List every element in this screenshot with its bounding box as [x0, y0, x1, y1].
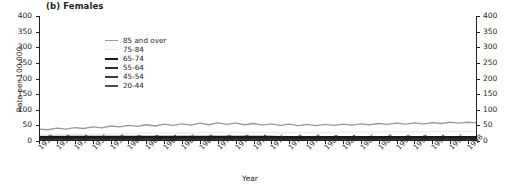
y-tick-mark-right — [477, 16, 480, 17]
y-tick-label: 0 — [8, 137, 32, 145]
y-tick-mark-right — [477, 125, 480, 126]
y-tick-mark-right — [477, 63, 480, 64]
y-tick-label: 250 — [8, 59, 32, 67]
y-tick-label-right: 350 — [483, 28, 507, 36]
legend-item-label: 75-84 — [123, 45, 144, 54]
series-lines — [39, 16, 477, 141]
y-tick-mark-right — [477, 32, 480, 33]
y-tick-label-right: 400 — [483, 12, 507, 20]
page-title: (b) Females — [46, 1, 103, 11]
y-tick-mark — [36, 110, 39, 111]
y-tick-label: 100 — [8, 106, 32, 114]
y-tick-label: 50 — [8, 121, 32, 129]
y-tick-mark-right — [477, 110, 480, 111]
y-tick-mark-right — [477, 47, 480, 48]
y-tick-mark — [36, 125, 39, 126]
legend-swatch-icon — [105, 85, 118, 87]
legend-swatch-icon — [105, 67, 118, 69]
y-tick-label: 200 — [8, 75, 32, 83]
y-tick-mark — [36, 32, 39, 33]
y-tick-mark — [36, 63, 39, 64]
figure-panel-b-females: (b) Females Rate per 100,000 Year 050100… — [0, 0, 528, 191]
y-tick-mark — [36, 47, 39, 48]
legend-item-label: 85 and over — [123, 36, 166, 45]
legend-item-label: 55-64 — [123, 63, 144, 72]
y-tick-label-right: 300 — [483, 43, 507, 51]
y-tick-mark — [36, 79, 39, 80]
y-tick-label-right: 50 — [483, 121, 507, 129]
y-tick-label: 350 — [8, 28, 32, 36]
legend-swatch-icon — [105, 40, 118, 41]
y-tick-label-right: 200 — [483, 75, 507, 83]
series-line — [39, 122, 477, 130]
y-tick-mark-right — [477, 79, 480, 80]
legend-item-label: 65-74 — [123, 54, 144, 63]
y-tick-label: 300 — [8, 43, 32, 51]
y-tick-label: 400 — [8, 12, 32, 20]
legend-swatch-icon — [105, 76, 118, 78]
legend-swatch-icon — [105, 58, 118, 60]
y-tick-label-right: 0 — [483, 137, 507, 145]
x-axis-label: Year — [0, 174, 500, 183]
y-axis-left-line — [39, 16, 40, 141]
y-tick-label-right: 250 — [483, 59, 507, 67]
y-tick-label-right: 100 — [483, 106, 507, 114]
y-tick-label-right: 150 — [483, 90, 507, 98]
y-tick-mark — [36, 94, 39, 95]
legend-item-label: 45-54 — [123, 72, 144, 81]
legend-swatch-icon — [105, 49, 118, 50]
y-tick-label: 150 — [8, 90, 32, 98]
y-tick-mark — [36, 16, 39, 17]
legend-item-label: 20-44 — [123, 81, 144, 90]
plot-area: 050100150200250300350400 050100150200250… — [39, 16, 477, 141]
y-tick-mark-right — [477, 94, 480, 95]
